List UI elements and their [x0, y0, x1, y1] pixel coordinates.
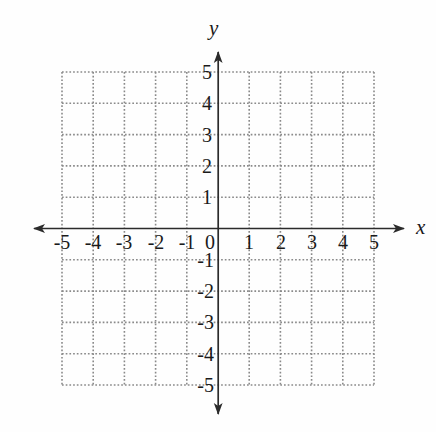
y-tick-label--2: -2 — [197, 281, 214, 301]
x-tick-label-3: 3 — [307, 232, 317, 252]
y-tick-label-3: 3 — [202, 125, 212, 145]
y-tick-label--1: -1 — [197, 250, 214, 270]
y-tick-label-5: 5 — [202, 62, 212, 82]
x-tick-label-2: 2 — [276, 232, 286, 252]
x-tick-label--1: -1 — [179, 232, 196, 252]
y-tick-label--3: -3 — [197, 312, 214, 332]
y-tick-label--4: -4 — [197, 344, 214, 364]
x-tick-label-4: 4 — [338, 232, 348, 252]
x-tick-label-5: 5 — [369, 232, 379, 252]
x-tick-label--5: -5 — [54, 232, 71, 252]
y-tick-label-1: 1 — [202, 187, 212, 207]
y-axis-label: y — [209, 18, 218, 39]
x-tick-label--4: -4 — [85, 232, 102, 252]
x-axis-label: x — [416, 217, 425, 238]
y-tick-label-2: 2 — [202, 156, 212, 176]
x-tick-label-1: 1 — [244, 232, 254, 252]
y-tick-label--5: -5 — [197, 375, 214, 395]
x-tick-label--2: -2 — [148, 232, 165, 252]
coordinate-plane-figure: x y 0 -5 -4 -3 -2 -1 1 2 3 4 5 5 4 3 2 1… — [0, 0, 436, 432]
coordinate-plane-canvas — [0, 0, 436, 432]
x-tick-label--3: -3 — [116, 232, 133, 252]
y-tick-label-4: 4 — [202, 93, 212, 113]
